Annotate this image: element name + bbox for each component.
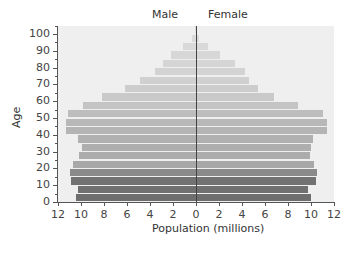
- male-bar-10-14: [71, 177, 196, 184]
- female-bar-40-44: [196, 127, 327, 134]
- male-bar-80-84: [163, 60, 196, 67]
- y-tick-label: 90: [10, 44, 50, 57]
- y-tick: [53, 152, 57, 153]
- y-tick: [53, 68, 57, 69]
- y-tick: [53, 118, 57, 119]
- x-tick-label: 2: [207, 208, 231, 221]
- y-tick: [55, 59, 57, 60]
- x-tick: [173, 202, 174, 206]
- female-bar-80-84: [196, 60, 235, 67]
- female-bar-70-74: [196, 77, 249, 84]
- y-tick: [55, 110, 57, 111]
- x-tick-label: 12: [322, 208, 346, 221]
- male-bar-70-74: [140, 77, 196, 84]
- x-tick-label: 2: [161, 208, 185, 221]
- x-tick-label: 4: [230, 208, 254, 221]
- x-tick: [334, 202, 335, 206]
- x-tick: [58, 202, 59, 206]
- x-tick: [196, 202, 197, 206]
- female-bar-65-69: [196, 85, 258, 92]
- x-axis-title: Population (millions): [152, 222, 264, 235]
- y-tick: [55, 26, 57, 27]
- female-bar-35-39: [196, 135, 313, 142]
- male-bar-20-24: [73, 161, 196, 168]
- male-bar-50-54: [68, 110, 196, 117]
- female-bar-60-64: [196, 93, 274, 100]
- female-bar-45-49: [196, 119, 327, 126]
- male-bar-40-44: [66, 127, 196, 134]
- male-label: Male: [152, 8, 178, 21]
- male-bar-90-94: [183, 43, 196, 50]
- female-bar-15-19: [196, 169, 317, 176]
- male-bar-5-9: [78, 186, 196, 193]
- female-bar-55-59: [196, 102, 298, 109]
- female-label: Female: [208, 8, 248, 21]
- y-tick: [53, 101, 57, 102]
- x-tick-label: 6: [115, 208, 139, 221]
- x-tick-label: 10: [69, 208, 93, 221]
- female-bar-25-29: [196, 152, 310, 159]
- y-tick-label: 60: [10, 94, 50, 107]
- male-bar-60-64: [102, 93, 196, 100]
- male-bar-0-4: [76, 194, 196, 201]
- female-bar-50-54: [196, 110, 323, 117]
- male-bar-45-49: [66, 119, 196, 126]
- y-tick: [55, 143, 57, 144]
- y-tick: [53, 185, 57, 186]
- y-tick: [53, 202, 57, 203]
- male-bar-35-39: [78, 135, 196, 142]
- y-tick: [55, 177, 57, 178]
- x-tick: [150, 202, 151, 206]
- x-tick-label: 12: [46, 208, 70, 221]
- x-tick: [81, 202, 82, 206]
- x-tick-label: 8: [276, 208, 300, 221]
- female-bar-5-9: [196, 186, 308, 193]
- y-tick: [53, 168, 57, 169]
- male-bar-85-89: [171, 51, 196, 58]
- y-tick: [55, 194, 57, 195]
- x-tick: [242, 202, 243, 206]
- male-bar-55-59: [83, 102, 196, 109]
- x-tick: [265, 202, 266, 206]
- y-tick-label: 30: [10, 145, 50, 158]
- female-bar-20-24: [196, 161, 314, 168]
- y-tick-label: 40: [10, 128, 50, 141]
- male-bar-25-29: [79, 152, 196, 159]
- female-bar-30-34: [196, 144, 311, 151]
- y-tick: [53, 51, 57, 52]
- y-tick: [55, 93, 57, 94]
- y-tick-label: 80: [10, 61, 50, 74]
- y-tick: [55, 42, 57, 43]
- y-axis-title: Age: [10, 107, 23, 128]
- y-tick: [53, 135, 57, 136]
- y-tick: [55, 126, 57, 127]
- female-bar-75-79: [196, 68, 245, 75]
- x-tick: [104, 202, 105, 206]
- y-axis: [57, 26, 58, 203]
- male-bar-30-34: [82, 144, 196, 151]
- x-tick-label: 0: [184, 208, 208, 221]
- center-axis-line: [196, 26, 198, 202]
- y-tick-label: 70: [10, 77, 50, 90]
- x-tick: [288, 202, 289, 206]
- y-tick-label: 20: [10, 161, 50, 174]
- female-bar-0-4: [196, 194, 311, 201]
- female-bar-90-94: [196, 43, 208, 50]
- x-tick: [219, 202, 220, 206]
- female-bar-10-14: [196, 177, 316, 184]
- x-tick-label: 10: [299, 208, 323, 221]
- y-tick: [53, 34, 57, 35]
- x-tick: [127, 202, 128, 206]
- y-tick: [55, 76, 57, 77]
- y-tick-label: 0: [10, 195, 50, 208]
- x-tick-label: 8: [92, 208, 116, 221]
- y-tick: [53, 84, 57, 85]
- female-bar-85-89: [196, 51, 220, 58]
- male-bar-75-79: [155, 68, 196, 75]
- x-tick: [311, 202, 312, 206]
- y-tick-label: 10: [10, 178, 50, 191]
- x-tick-label: 4: [138, 208, 162, 221]
- male-bar-15-19: [70, 169, 197, 176]
- x-tick-label: 6: [253, 208, 277, 221]
- male-bar-65-69: [125, 85, 196, 92]
